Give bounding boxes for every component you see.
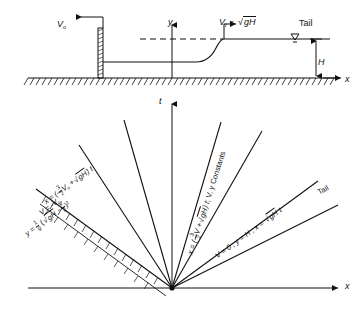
characteristic-rays <box>36 120 338 288</box>
tail-word-upper: Tail <box>299 19 313 28</box>
lower-t-axis-label: t <box>159 97 162 106</box>
engineering-figure <box>0 0 361 312</box>
tail-velocity-label: Vt = √gH <box>219 18 256 28</box>
lower-diagram <box>28 104 338 296</box>
ray-origin-point <box>169 285 174 290</box>
ground-hatching <box>24 78 334 85</box>
upstream-velocity-leader <box>81 17 103 28</box>
negative-wave-band-hatching <box>44 210 148 289</box>
upper-y-axis-label: y <box>168 18 173 27</box>
ray-3 <box>124 120 172 288</box>
water-surface-profile <box>196 39 224 62</box>
upstream-velocity-label: Vo <box>57 20 66 30</box>
sqrt-gh-upper: √gH <box>237 17 256 27</box>
ray-4 <box>172 122 221 288</box>
upper-diagram <box>24 17 341 85</box>
gate-hatching <box>98 29 103 75</box>
lower-x-axis-label: x <box>345 282 350 291</box>
depth-label: H <box>318 58 325 67</box>
water-level-symbol <box>291 34 299 42</box>
upper-x-axis-label: x <box>345 75 350 84</box>
